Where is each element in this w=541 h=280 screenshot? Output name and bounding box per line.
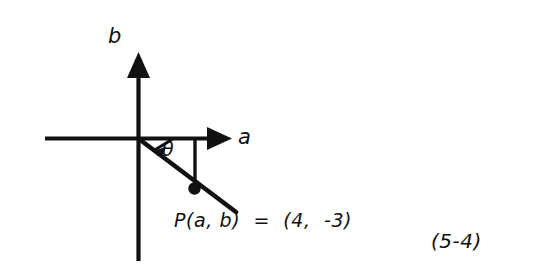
point-p-marker (188, 182, 200, 194)
a-axis-arrowhead (207, 127, 232, 150)
b-axis-label: b (108, 26, 121, 47)
equation-number: (5-4) (431, 231, 482, 251)
a-axis-label: a (238, 127, 251, 148)
theta-angle-label: θ (162, 140, 174, 159)
b-axis-arrowhead (127, 52, 150, 78)
point-p-coordinate-label: P(a, b) = (4, -3) (174, 211, 352, 230)
figure-canvas: b a θ P(a, b) = (4, -3) (5-4) (0, 0, 541, 280)
ray-to-point-p (139, 139, 236, 212)
